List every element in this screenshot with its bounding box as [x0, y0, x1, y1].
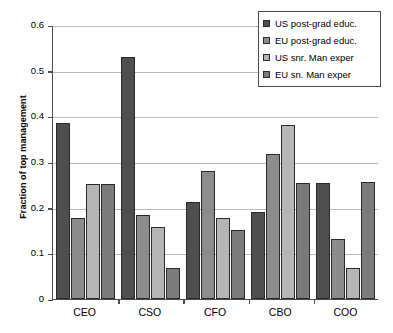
bar	[201, 171, 216, 299]
x-axis-tick	[183, 299, 184, 304]
bar-group	[53, 26, 118, 299]
y-axis-tick-label: 0.1	[31, 247, 44, 258]
bar	[186, 202, 201, 299]
x-axis-label-ceo: CEO	[52, 306, 117, 318]
y-axis-title: Fraction of top management	[18, 42, 28, 272]
bar	[86, 184, 101, 299]
x-axis-label-cbo: CBO	[248, 306, 313, 318]
legend-label: EU post-grad educ.	[275, 35, 357, 46]
y-axis-tick-label: 0.4	[31, 110, 44, 121]
legend-item: EU post-grad educ.	[263, 32, 376, 49]
y-axis-tick-label: 0.5	[31, 65, 44, 76]
legend-item: US snr. Man exper	[263, 49, 376, 66]
legend-swatch-icon	[263, 37, 270, 44]
x-axis-label-cfo: CFO	[182, 306, 247, 318]
bar	[331, 239, 346, 299]
x-axis-tick	[314, 299, 315, 304]
bar	[216, 218, 231, 299]
bar	[101, 184, 116, 299]
bar	[266, 154, 281, 299]
bar-chart: Fraction of top management 00.10.20.30.4…	[0, 0, 393, 333]
legend-label: EU sn. Man exper	[275, 69, 351, 80]
legend-label: US post-grad educ.	[275, 18, 357, 29]
legend-swatch-icon	[263, 71, 270, 78]
y-axis-tick-label: 0	[39, 293, 44, 304]
bar	[56, 123, 71, 299]
bar	[296, 183, 311, 299]
bar	[136, 215, 151, 299]
x-axis-label-cso: CSO	[117, 306, 182, 318]
bar	[361, 182, 376, 299]
bar	[346, 268, 361, 299]
chart-legend: US post-grad educ.EU post-grad educ.US s…	[258, 11, 381, 87]
x-axis-tick	[118, 299, 119, 304]
bar-group	[183, 26, 248, 299]
bar	[166, 268, 181, 299]
bar	[251, 212, 266, 299]
bar-group	[118, 26, 183, 299]
legend-swatch-icon	[263, 20, 270, 27]
bar	[71, 218, 86, 299]
legend-label: US snr. Man exper	[275, 52, 354, 63]
bar	[231, 230, 246, 299]
x-axis-tick	[249, 299, 250, 304]
legend-item: US post-grad educ.	[263, 15, 376, 32]
bar	[281, 125, 296, 299]
tick-mark	[48, 300, 53, 301]
bar	[151, 227, 166, 299]
bar	[316, 183, 331, 299]
y-axis-tick-label: 0.2	[31, 202, 44, 213]
x-axis-label-coo: COO	[313, 306, 378, 318]
bar	[121, 57, 136, 299]
legend-item: EU sn. Man exper	[263, 66, 376, 83]
legend-swatch-icon	[263, 54, 270, 61]
y-axis-tick-label: 0.6	[31, 19, 44, 30]
y-axis-tick-label: 0.3	[31, 156, 44, 167]
